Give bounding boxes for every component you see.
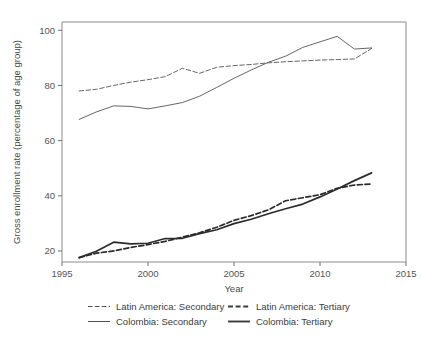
y-axis-label: Gross enrollment rate (percentage of age…: [11, 40, 22, 244]
x-tick-label: 2000: [137, 268, 158, 279]
legend-label: Colombia: Secondary: [116, 316, 207, 327]
data-series-group: [79, 36, 371, 257]
series-line: [79, 48, 371, 90]
x-tick-label: 1995: [51, 268, 72, 279]
x-axis-label: Year: [224, 283, 243, 294]
x-tick-label: 2015: [395, 268, 416, 279]
series-line: [79, 36, 371, 119]
y-tick-label: 20: [44, 245, 55, 256]
y-tick-label: 100: [39, 25, 55, 36]
y-axis-ticks: 20406080100: [39, 25, 62, 257]
series-line: [79, 184, 371, 258]
chart-figure: 20406080100 19952000200520102015 Year Gr…: [0, 0, 423, 340]
x-tick-label: 2005: [223, 268, 244, 279]
y-tick-label: 60: [44, 135, 55, 146]
legend-label: Latin America: Tertiary: [256, 301, 350, 312]
chart-legend: Latin America: SecondaryLatin America: T…: [88, 301, 350, 327]
y-tick-label: 80: [44, 80, 55, 91]
series-line: [79, 173, 371, 258]
x-axis-ticks: 19952000200520102015: [51, 262, 416, 279]
x-tick-label: 2010: [309, 268, 330, 279]
legend-label: Colombia: Tertiary: [256, 316, 333, 327]
line-chart-canvas: 20406080100 19952000200520102015 Year Gr…: [0, 0, 423, 340]
plot-frame: [62, 22, 406, 262]
legend-label: Latin America: Secondary: [116, 301, 225, 312]
y-tick-label: 40: [44, 190, 55, 201]
